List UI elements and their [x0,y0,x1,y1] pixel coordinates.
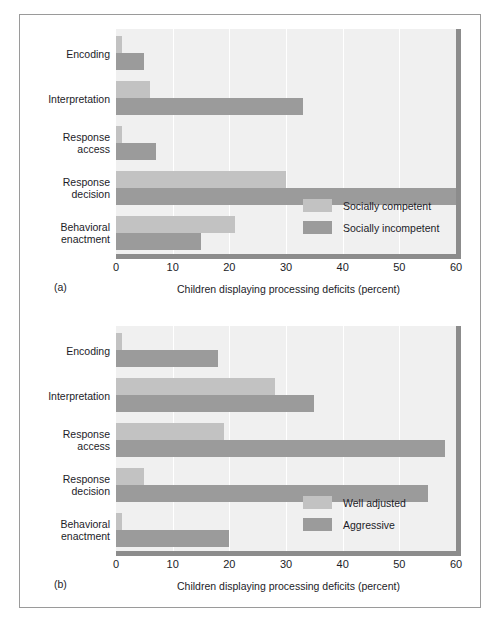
x-tick-label: 0 [101,558,131,570]
bar [116,233,201,250]
category-label-line: enactment [18,530,110,543]
category-label-line: Interpretation [18,93,110,106]
category-label: Responsedecision [18,176,110,201]
x-tick-label: 50 [384,558,414,570]
x-tick-label: 10 [158,558,188,570]
x-axis-title-b: Children displaying processing deficits … [116,580,461,592]
category-label: Encoding [18,345,110,358]
bar [116,530,229,547]
bar [116,36,122,53]
bar [116,468,144,485]
x-tick-label: 0 [101,261,131,273]
legend-a: Socially competentSocially incompetent [303,197,439,241]
legend-label: Socially incompetent [343,222,439,234]
category-label-line: Response [18,473,110,486]
x-tick-label: 10 [158,261,188,273]
legend-label: Well adjusted [343,497,406,509]
bar [116,143,156,160]
y-axis-line-a [456,29,461,259]
category-label-line: Behavioral [18,221,110,234]
x-axis-line-b [116,551,461,556]
category-label-line: access [18,440,110,453]
x-tick-label: 20 [214,558,244,570]
gridline [286,29,287,254]
category-label-line: Response [18,428,110,441]
x-axis-title-a: Children displaying processing deficits … [116,283,461,295]
bar [116,81,150,98]
x-tick-label: 30 [271,261,301,273]
bar [116,126,122,143]
x-tick-label: 30 [271,558,301,570]
legend-swatch [303,221,332,234]
gridline [229,326,230,551]
bar [116,423,224,440]
x-tick-label: 60 [441,558,471,570]
category-label: Behavioralenactment [18,221,110,246]
category-label-line: access [18,143,110,156]
category-label: Behavioralenactment [18,518,110,543]
gridline [286,326,287,551]
category-label: Interpretation [18,93,110,106]
panel-tag-a: (a) [54,281,67,293]
category-label: Encoding [18,48,110,61]
category-label-line: decision [18,485,110,498]
bar [116,350,218,367]
panel-tag-b: (b) [54,578,67,590]
x-tick-label: 50 [384,261,414,273]
x-tick-label: 40 [328,261,358,273]
bar [116,98,303,115]
legend-item: Socially competent [303,197,439,214]
category-label-line: Response [18,176,110,189]
bar [116,216,235,233]
chart-panel-a: EncodingInterpretationResponseaccessResp… [20,15,482,312]
legend-swatch [303,496,332,509]
category-label-line: Interpretation [18,390,110,403]
category-label-line: decision [18,188,110,201]
bar [116,513,122,530]
bar [116,53,144,70]
bar [116,395,314,412]
legend-b: Well adjustedAggressive [303,494,406,538]
bar [116,440,445,457]
figure-container: EncodingInterpretationResponseaccessResp… [19,14,481,608]
bar [116,333,122,350]
category-label: Responseaccess [18,428,110,453]
chart-panel-b: EncodingInterpretationResponseaccessResp… [20,312,482,609]
legend-label: Aggressive [343,519,395,531]
category-label-line: enactment [18,233,110,246]
legend-item: Socially incompetent [303,219,439,236]
legend-swatch [303,518,332,531]
legend-swatch [303,199,332,212]
bar [116,171,286,188]
legend-item: Well adjusted [303,494,406,511]
category-label: Responseaccess [18,131,110,156]
bar [116,378,275,395]
category-label-line: Encoding [18,345,110,358]
legend-item: Aggressive [303,516,406,533]
category-label-line: Response [18,131,110,144]
x-tick-label: 20 [214,261,244,273]
legend-label: Socially competent [343,200,431,212]
x-tick-label: 40 [328,558,358,570]
y-axis-line-b [456,326,461,556]
x-tick-label: 60 [441,261,471,273]
category-label: Interpretation [18,390,110,403]
category-label-line: Encoding [18,48,110,61]
x-axis-line-a [116,254,461,259]
category-label: Responsedecision [18,473,110,498]
category-label-line: Behavioral [18,518,110,531]
